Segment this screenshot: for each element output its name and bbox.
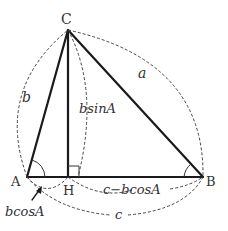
segment-label-AH: bcosA xyxy=(5,204,45,219)
dim-arc-HB-right xyxy=(170,177,203,189)
vertex-label-C: C xyxy=(61,11,72,27)
segment-label-HB: c−bcosA xyxy=(103,182,161,197)
right-angle-marker xyxy=(68,166,79,177)
angle-B-arc xyxy=(184,164,191,177)
triangle-diagram: C A H B b a bsinA c−bcosA c bcosA xyxy=(0,0,228,231)
altitude-label-bsinA: bsinA xyxy=(79,101,116,116)
vertex-label-H: H xyxy=(63,183,74,198)
side-label-c: c xyxy=(115,207,123,222)
vertex-label-B: B xyxy=(206,174,216,189)
side-label-b: b xyxy=(22,89,31,105)
side-AC xyxy=(27,30,68,177)
angle-A-arc xyxy=(32,160,45,177)
dim-arc-bcosA xyxy=(27,177,68,189)
vertex-label-A: A xyxy=(10,174,21,189)
side-label-a: a xyxy=(138,65,146,81)
